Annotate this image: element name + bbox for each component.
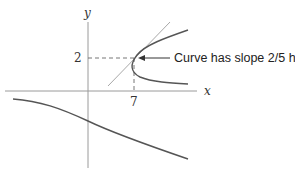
y-tick-label: 2 xyxy=(74,51,82,65)
arrowhead-icon xyxy=(138,55,145,61)
curve-lower-branch xyxy=(13,99,188,159)
slope-annotation: Curve has slope 2/5 here xyxy=(174,51,295,65)
y-axis-label: y xyxy=(83,6,91,20)
x-tick-label: 7 xyxy=(130,95,138,109)
x-axis-label: x xyxy=(204,84,211,98)
implicit-curve-diagram: y x 2 7 Curve has slope 2/5 here xyxy=(0,0,295,173)
